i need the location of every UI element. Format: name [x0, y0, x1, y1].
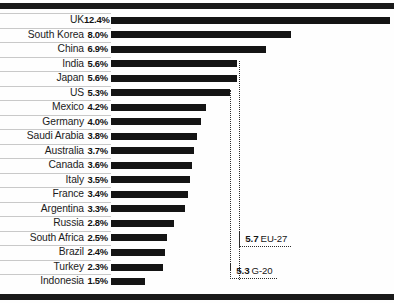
- bar: [111, 162, 192, 169]
- bar-track: [111, 216, 394, 231]
- category-label: South Africa: [0, 231, 84, 246]
- category-label: France: [0, 187, 84, 202]
- reference-line-g20: [230, 90, 231, 270]
- bar-track: [111, 100, 394, 115]
- bar-track: [111, 129, 394, 144]
- bar: [111, 89, 230, 96]
- bar-track: [111, 144, 394, 159]
- bar-track: [111, 173, 394, 188]
- category-label: Germany: [0, 115, 84, 130]
- bar-track: [111, 245, 394, 260]
- annotation-eu27: 5.7EU-27: [239, 232, 291, 247]
- chart-row: Mexico4.2%: [0, 100, 394, 115]
- category-label: UK: [0, 13, 84, 28]
- chart-row: Indonesia1.5%: [0, 274, 394, 289]
- chart-row: Italy3.5%: [0, 173, 394, 188]
- value-label: 8.0%: [84, 28, 108, 43]
- bar-track: [111, 13, 394, 28]
- bar-track: [111, 158, 394, 173]
- chart-plot-area: UK12.4%South Korea8.0%China6.9%India5.6%…: [0, 13, 394, 289]
- bar: [111, 75, 237, 82]
- bar: [111, 17, 390, 24]
- value-label: 3.8%: [84, 129, 108, 144]
- chart-row: Brazil2.4%: [0, 245, 394, 260]
- bar: [111, 176, 190, 183]
- value-label: 3.7%: [84, 144, 108, 159]
- chart-row: Turkey2.3%: [0, 260, 394, 275]
- chart-row: Russia2.8%: [0, 216, 394, 231]
- bar-track: [111, 28, 394, 43]
- bar: [111, 46, 266, 53]
- chart-row: South Africa2.5%: [0, 231, 394, 246]
- bar-track: [111, 57, 394, 72]
- value-label: 2.5%: [84, 231, 108, 246]
- bar-track: [111, 115, 394, 130]
- bar: [111, 220, 174, 227]
- category-label: US: [0, 86, 84, 101]
- category-label: Turkey: [0, 260, 84, 275]
- chart-row: South Korea8.0%: [0, 28, 394, 43]
- value-label: 5.6%: [84, 57, 108, 72]
- bar: [111, 104, 206, 111]
- category-label: Mexico: [0, 100, 84, 115]
- chart-row: France3.4%: [0, 187, 394, 202]
- annotation-g20: 5.3G-20: [230, 264, 276, 279]
- category-label: Russia: [0, 216, 84, 231]
- chart-row: Canada3.6%: [0, 158, 394, 173]
- bar: [111, 234, 167, 241]
- category-label: Australia: [0, 144, 84, 159]
- bar: [111, 264, 163, 271]
- annotation-g20-value: 5.3: [236, 265, 249, 276]
- bar-chart: UK12.4%South Korea8.0%China6.9%India5.6%…: [0, 0, 394, 303]
- bar: [111, 278, 145, 285]
- chart-row: Saudi Arabia3.8%: [0, 129, 394, 144]
- category-label: Brazil: [0, 245, 84, 260]
- category-label: Argentina: [0, 202, 84, 217]
- bottom-rule: [0, 294, 394, 300]
- value-label: 2.3%: [84, 260, 108, 275]
- bar-track: [111, 202, 394, 217]
- value-label: 4.2%: [84, 100, 108, 115]
- annotation-eu27-value: 5.7: [245, 233, 258, 244]
- value-label: 1.5%: [84, 274, 108, 289]
- chart-row: UK12.4%: [0, 13, 394, 28]
- value-label: 5.3%: [84, 86, 108, 101]
- category-label: China: [0, 42, 84, 57]
- value-label: 5.6%: [84, 71, 108, 86]
- chart-row: Argentina3.3%: [0, 202, 394, 217]
- bar: [111, 147, 194, 154]
- value-label: 4.0%: [84, 115, 108, 130]
- value-label: 3.4%: [84, 187, 108, 202]
- chart-row: India5.6%: [0, 57, 394, 72]
- bar: [111, 191, 188, 198]
- chart-row: Japan5.6%: [0, 71, 394, 86]
- bar-track: [111, 42, 394, 57]
- chart-row: US5.3%: [0, 86, 394, 101]
- value-label: 3.3%: [84, 202, 108, 217]
- chart-row: Australia3.7%: [0, 144, 394, 159]
- value-label: 3.5%: [84, 173, 108, 188]
- bar: [111, 60, 237, 67]
- chart-row: Germany4.0%: [0, 115, 394, 130]
- bar: [111, 205, 185, 212]
- category-label: Japan: [0, 71, 84, 86]
- category-label: Saudi Arabia: [0, 129, 84, 144]
- top-rule: [0, 3, 394, 9]
- bar-track: [111, 86, 394, 101]
- bar: [111, 249, 165, 256]
- chart-row: China6.9%: [0, 42, 394, 57]
- category-label: Indonesia: [0, 274, 84, 289]
- value-label: 12.4%: [84, 13, 108, 28]
- category-label: South Korea: [0, 28, 84, 43]
- category-label: Canada: [0, 158, 84, 173]
- value-label: 6.9%: [84, 42, 108, 57]
- category-label: India: [0, 57, 84, 72]
- bar: [111, 133, 197, 140]
- value-label: 2.8%: [84, 216, 108, 231]
- value-label: 2.4%: [84, 245, 108, 260]
- category-label: Italy: [0, 173, 84, 188]
- bar-track: [111, 187, 394, 202]
- bar: [111, 31, 291, 38]
- bar: [111, 118, 201, 125]
- bar-track: [111, 71, 394, 86]
